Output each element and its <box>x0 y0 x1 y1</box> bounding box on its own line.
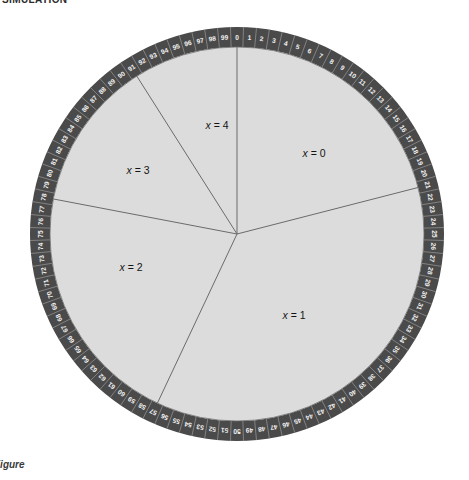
sector-label: x= 2 <box>118 261 142 273</box>
spinner-wheel-svg: 0123456789101112131415161718192021222324… <box>26 23 448 445</box>
rim-tick-number: 74 <box>37 242 44 250</box>
rim-tick-number: 52 <box>208 425 216 433</box>
rim-tick-number: 73 <box>38 254 46 262</box>
rim-tick-number: 48 <box>257 426 265 434</box>
rim-tick-number: 98 <box>208 35 216 43</box>
sector-label-variable: x <box>125 164 132 176</box>
sector-label-value: = 1 <box>291 309 306 321</box>
sector-label-variable: x <box>204 119 211 131</box>
rim-tick-number: 99 <box>221 34 229 41</box>
rim-tick-number: 27 <box>428 255 436 263</box>
sector-label-variable: x <box>281 309 288 321</box>
rim-tick-number: 25 <box>431 230 438 238</box>
sector-label-value: = 4 <box>214 119 229 131</box>
rim-tick-number: 49 <box>245 427 253 434</box>
sector-label: x= 3 <box>125 164 149 176</box>
rim-tick-number: 76 <box>37 217 44 225</box>
rim-tick-number: 51 <box>220 427 228 434</box>
rim-tick-number: 26 <box>430 242 437 250</box>
sector-label-value: = 0 <box>311 147 326 159</box>
rim-tick-number: 75 <box>37 230 44 238</box>
rim-tick-number: 0 <box>235 34 239 41</box>
sector-label-value: = 2 <box>128 261 143 273</box>
sector-label: x= 1 <box>281 309 305 321</box>
sector-label-variable: x <box>301 147 308 159</box>
rim-tick-number: 50 <box>233 428 241 435</box>
figure-caption: Figure <box>0 459 25 470</box>
sector-label-value: = 3 <box>135 164 150 176</box>
sector-label: x= 4 <box>204 119 228 131</box>
sector-label: x= 0 <box>301 147 325 159</box>
figure-page: SIMULATION 01234567891011121314151617181… <box>0 0 469 480</box>
sector-label-variable: x <box>118 261 125 273</box>
spinner-wheel-figure: 0123456789101112131415161718192021222324… <box>26 23 448 445</box>
rim-tick-number: 24 <box>430 218 437 226</box>
rim-tick-number: 77 <box>38 205 46 213</box>
rim-tick-number: 23 <box>429 205 437 213</box>
page-title: SIMULATION <box>2 0 67 5</box>
